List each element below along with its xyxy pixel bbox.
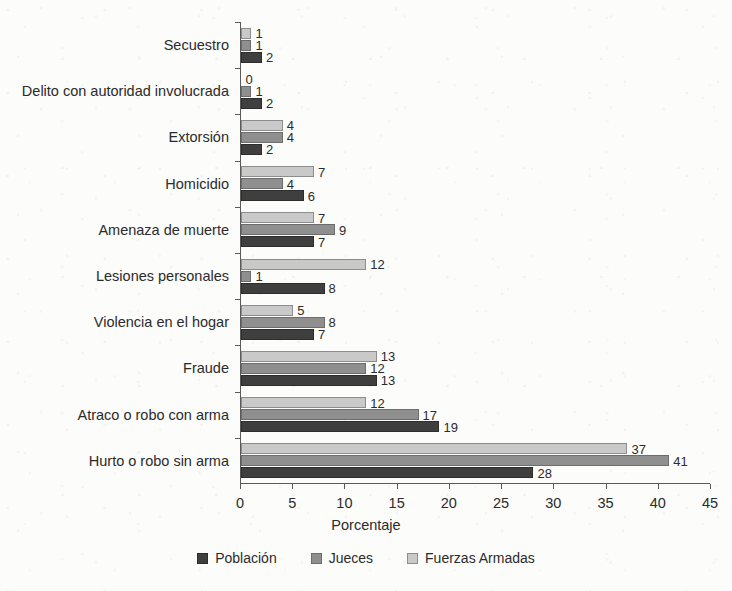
x-axis-tick-label: 35 <box>597 495 613 511</box>
bar-row: 8 <box>241 317 325 328</box>
bar-jueces[interactable] <box>241 40 251 51</box>
x-axis-tick <box>397 484 398 489</box>
bar-row: 7 <box>241 166 314 177</box>
bar-fuerzas[interactable] <box>241 120 283 131</box>
x-axis-tick <box>658 484 659 489</box>
bar-row: 13 <box>241 375 377 386</box>
x-axis-tick-label: 10 <box>336 495 352 511</box>
legend-label: Fuerzas Armadas <box>425 550 535 566</box>
bar-value-label: 4 <box>287 176 294 191</box>
bar-row: 4 <box>241 132 283 143</box>
x-axis-tick <box>449 484 450 489</box>
bar-chart: 051015202530354045 Secuestro112Delito co… <box>0 0 732 591</box>
category-label: Extorsión <box>169 129 229 145</box>
bar-jueces[interactable] <box>241 455 669 466</box>
x-axis-tick <box>606 484 607 489</box>
bar-group: Violencia en el hogar587 <box>240 299 710 345</box>
bar-poblacion[interactable] <box>241 421 439 432</box>
legend-item-fuerzas[interactable]: Fuerzas Armadas <box>407 550 535 566</box>
bar-fuerzas[interactable] <box>241 212 314 223</box>
bar-poblacion[interactable] <box>241 236 314 247</box>
bar-value-label: 0 <box>246 72 253 87</box>
bar-group: Fraude131213 <box>240 345 710 391</box>
x-axis-tick <box>553 484 554 489</box>
plot-area: 051015202530354045 Secuestro112Delito co… <box>240 22 710 484</box>
bar-row: 1 <box>241 271 251 282</box>
bar-row: 12 <box>241 363 366 374</box>
category-label: Lesiones personales <box>96 268 229 284</box>
x-axis-tick-label: 45 <box>702 495 718 511</box>
bar-poblacion[interactable] <box>241 52 262 63</box>
bar-row: 12 <box>241 397 366 408</box>
bar-value-label: 2 <box>266 50 273 65</box>
bar-row: 7 <box>241 329 314 340</box>
bar-row: 8 <box>241 283 325 294</box>
bar-jueces[interactable] <box>241 86 251 97</box>
bar-fuerzas[interactable] <box>241 305 293 316</box>
bar-jueces[interactable] <box>241 132 283 143</box>
category-label: Delito con autoridad involucrada <box>22 83 229 99</box>
bar-row: 4 <box>241 120 283 131</box>
bar-poblacion[interactable] <box>241 375 377 386</box>
bar-fuerzas[interactable] <box>241 443 627 454</box>
bar-group: Delito con autoridad involucrada012 <box>240 68 710 114</box>
category-label: Violencia en el hogar <box>94 314 229 330</box>
bar-poblacion[interactable] <box>241 144 262 155</box>
bar-value-label: 4 <box>287 130 294 145</box>
bar-value-label: 9 <box>339 222 346 237</box>
legend-swatch-icon <box>311 553 322 564</box>
bar-fuerzas[interactable] <box>241 28 251 39</box>
x-axis-title: Porcentaje <box>0 517 732 533</box>
legend-item-poblacion[interactable]: Población <box>197 550 277 566</box>
bar-fuerzas[interactable] <box>241 397 366 408</box>
bar-value-label: 28 <box>537 465 551 480</box>
bar-row: 4 <box>241 178 283 189</box>
bar-jueces[interactable] <box>241 363 366 374</box>
bar-value-label: 7 <box>318 210 325 225</box>
bar-row: 0 <box>241 74 242 85</box>
x-axis-tick-label: 25 <box>493 495 509 511</box>
bar-value-label: 1 <box>255 84 262 99</box>
chart-legend: PoblaciónJuecesFuerzas Armadas <box>0 550 732 566</box>
bar-row: 1 <box>241 86 251 97</box>
legend-swatch-icon <box>407 553 418 564</box>
bar-value-label: 12 <box>370 257 384 272</box>
bar-row: 7 <box>241 236 314 247</box>
bar-poblacion[interactable] <box>241 467 533 478</box>
bar-row: 1 <box>241 28 251 39</box>
bar-fuerzas[interactable] <box>241 351 377 362</box>
bar-row: 13 <box>241 351 377 362</box>
x-axis-tick <box>344 484 345 489</box>
bar-poblacion[interactable] <box>241 329 314 340</box>
bar-jueces[interactable] <box>241 317 325 328</box>
bar-poblacion[interactable] <box>241 283 325 294</box>
bar-row: 41 <box>241 455 669 466</box>
category-label: Homicidio <box>165 176 229 192</box>
bar-value-label: 2 <box>266 142 273 157</box>
x-axis-tick-label: 20 <box>441 495 457 511</box>
category-label: Fraude <box>183 360 229 376</box>
bar-group: Hurto o robo sin arma374128 <box>240 438 710 484</box>
bar-row: 37 <box>241 443 627 454</box>
bar-row: 1 <box>241 40 251 51</box>
bar-jueces[interactable] <box>241 271 251 282</box>
x-axis-tick-label: 15 <box>389 495 405 511</box>
category-label: Amenaza de muerte <box>98 222 229 238</box>
bar-group: Lesiones personales1218 <box>240 253 710 299</box>
bar-value-label: 19 <box>443 419 457 434</box>
legend-item-jueces[interactable]: Jueces <box>311 550 373 566</box>
bar-value-label: 2 <box>266 96 273 111</box>
bar-row: 17 <box>241 409 419 420</box>
bar-poblacion[interactable] <box>241 190 304 201</box>
bar-poblacion[interactable] <box>241 98 262 109</box>
bar-value-label: 7 <box>318 327 325 342</box>
bar-fuerzas[interactable] <box>241 166 314 177</box>
bar-value-label: 1 <box>255 269 262 284</box>
bar-group: Secuestro112 <box>240 22 710 68</box>
legend-label: Población <box>215 550 277 566</box>
bar-row: 19 <box>241 421 439 432</box>
bar-value-label: 13 <box>381 373 395 388</box>
bar-jueces[interactable] <box>241 178 283 189</box>
bar-value-label: 1 <box>255 38 262 53</box>
bar-jueces[interactable] <box>241 409 419 420</box>
